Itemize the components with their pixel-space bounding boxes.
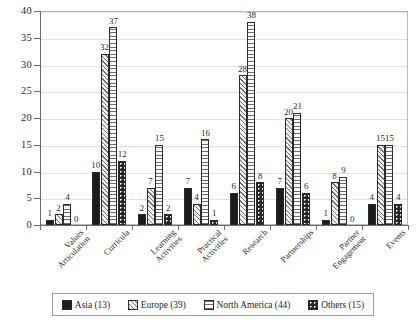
bar [394,204,402,225]
bar-value-label: 21 [293,102,302,111]
y-tick-label: 35 [4,33,32,43]
bar-value-label: 28 [238,65,247,74]
bar-value-label: 15 [385,134,394,143]
bar-value-label: 0 [74,215,79,224]
legend-swatch-icon [308,300,318,310]
bar-value-label: 10 [91,161,100,170]
bar-value-label: 0 [350,215,355,224]
y-tick-label: 10 [4,167,32,177]
bar [293,113,301,225]
bar [147,188,155,225]
y-tick-label: 25 [4,86,32,96]
bar-value-label: 15 [155,134,164,143]
x-axis-labels: Values ArticulationCurriculaLearning Act… [0,228,416,286]
bar-group: 27152 [132,11,178,225]
bar-value-label: 16 [201,129,210,138]
bar-value-label: 32 [100,43,109,52]
bar-value-label: 2 [140,204,145,213]
legend-label: North America (44) [217,300,291,310]
bar-chart: 0510152025303540 12401032371227152741616… [0,0,416,328]
bar-value-label: 4 [65,193,70,202]
bar-value-label: 1 [212,209,217,218]
bar [101,54,109,225]
legend-label: Asia (13) [75,300,110,310]
bar-value-label: 9 [341,166,346,175]
bar-value-label: 1 [324,209,329,218]
legend-swatch-icon [128,300,138,310]
bar-value-label: 4 [370,193,375,202]
bar-group: 1240 [40,11,86,225]
y-tick-label: 40 [4,6,32,16]
bar-group: 628388 [224,11,270,225]
bar [285,118,293,225]
bar [247,22,255,225]
bar-value-label: 15 [376,134,385,143]
bar [377,145,385,225]
bar [368,204,376,225]
bar-value-label: 12 [118,150,127,159]
bar [331,182,339,225]
bar [63,204,71,225]
legend-item: Europe (39) [127,300,187,310]
y-tick-label: 5 [4,193,32,203]
bar-value-label: 2 [166,204,171,213]
legend-swatch-icon [204,300,214,310]
y-tick-label: 30 [4,60,32,70]
bar [276,188,284,225]
bar [230,193,238,225]
bar [109,27,117,225]
bar-value-label: 7 [278,177,283,186]
legend: Asia (13)Europe (39)North America (44)Ot… [52,293,374,316]
bar-value-label: 8 [332,172,337,181]
bar-group: 1890 [316,11,362,225]
bar [239,75,247,225]
bar [385,145,393,225]
bar [184,188,192,225]
bar-value-label: 8 [258,172,263,181]
y-tick-label: 20 [4,113,32,123]
legend-swatch-icon [62,300,72,310]
bar [201,139,209,225]
bar-group: 720216 [270,11,316,225]
bar-value-label: 2 [56,204,61,213]
legend-item: Others (15) [307,300,365,310]
bar [193,204,201,225]
legend-item: North America (44) [203,300,292,310]
y-tick-label: 15 [4,140,32,150]
bar [138,214,146,225]
bar-group: 415154 [362,11,408,225]
legend-item: Asia (13) [61,300,111,310]
bar-value-label: 7 [186,177,191,186]
bar [55,214,63,225]
bar [164,214,172,225]
bar-value-label: 6 [232,182,237,191]
bar [339,177,347,225]
legend-label: Europe (39) [141,300,186,310]
bar-value-label: 38 [247,11,256,20]
bar-value-label: 6 [304,182,309,191]
bar [302,193,310,225]
bar-value-label: 7 [148,177,153,186]
bar [256,182,264,225]
bar-value-label: 4 [396,193,401,202]
legend-label: Others (15) [321,300,364,310]
bar-value-label: 4 [194,193,199,202]
bar-group: 74161 [178,11,224,225]
bar [92,172,100,226]
bar [118,161,126,225]
bars-layer: 1240103237122715274161628388720216189041… [40,11,408,225]
bar-group: 10323712 [86,11,132,225]
bar-value-label: 1 [48,209,53,218]
bar-value-label: 20 [284,108,293,117]
bar [155,145,163,225]
bar-value-label: 37 [109,17,118,26]
